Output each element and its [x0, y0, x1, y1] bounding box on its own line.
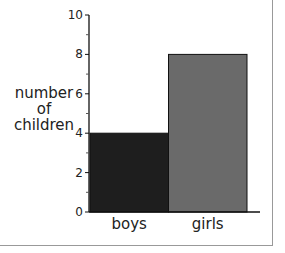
- y-tick-label: 6: [75, 87, 83, 101]
- y-tick-label: 2: [75, 166, 83, 180]
- bar-chart: boysgirls0246810numberofchildren: [0, 0, 285, 253]
- y-tick-label: 0: [75, 205, 83, 219]
- bar-boys: [90, 133, 169, 212]
- x-tick-label: boys: [112, 215, 148, 233]
- bar-girls: [169, 54, 248, 212]
- y-axis-label: children: [14, 116, 74, 134]
- y-tick-label: 10: [68, 8, 83, 22]
- x-tick-label: girls: [192, 215, 224, 233]
- y-tick-label: 8: [75, 47, 83, 61]
- y-tick-label: 4: [75, 126, 83, 140]
